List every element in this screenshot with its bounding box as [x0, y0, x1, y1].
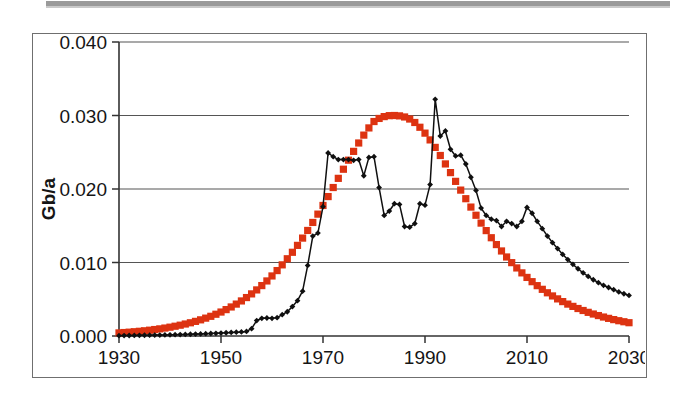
x-tick-label: 1970 [302, 347, 344, 368]
y-tick-group [112, 42, 119, 336]
model-curve-marker [493, 241, 500, 248]
model-curve-marker [335, 175, 342, 182]
model-curve-marker [472, 212, 479, 219]
x-tick-label: 1990 [404, 347, 446, 368]
model-curve-marker [437, 152, 444, 159]
y-tick-label: 0.000 [59, 326, 107, 347]
model-curve-marker [350, 148, 357, 155]
y-axis-title: Gb/a [38, 177, 59, 220]
model-curve-marker [478, 220, 485, 227]
model-curve-marker [421, 130, 428, 137]
model-curve-marker [483, 227, 490, 234]
y-tick-label: 0.010 [59, 253, 107, 274]
model-curve-marker [365, 124, 372, 131]
x-tick-group [119, 336, 629, 343]
x-tick-label: 2010 [506, 347, 548, 368]
model-curve-marker [625, 319, 632, 326]
x-tick-labels: 193019501970199020102030 [98, 347, 645, 368]
model-curve-marker [330, 184, 337, 191]
model-curve-marker [340, 166, 347, 173]
model-curve-marker [488, 234, 495, 241]
model-curve-marker [457, 187, 464, 194]
figure-frame: 0.0000.0100.0200.0300.040 19301950197019… [32, 33, 647, 378]
model-curve-marker [299, 234, 306, 241]
model-curve-marker [442, 160, 449, 167]
model-curve-marker [304, 227, 311, 234]
model-curve-marker [325, 193, 332, 200]
model-curve-marker [360, 132, 367, 139]
y-tick-label: 0.040 [59, 34, 107, 53]
model-curve-marker [284, 255, 291, 262]
model-curve-marker [289, 249, 296, 256]
model-curve-marker [452, 178, 459, 185]
model-curve-marker [467, 203, 474, 210]
model-curve-marker [462, 195, 469, 202]
y-tick-labels: 0.0000.0100.0200.0300.040 [59, 34, 107, 347]
page-canvas: 0.0000.0100.0200.0300.040 19301950197019… [0, 0, 674, 395]
x-tick-label: 1950 [200, 347, 242, 368]
x-tick-label: 1930 [98, 347, 140, 368]
y-tick-label: 0.020 [59, 179, 107, 200]
model-curve-marker [309, 219, 316, 226]
model-curve-marker [355, 139, 362, 146]
y-tick-label: 0.030 [59, 106, 107, 127]
model-curve-marker [294, 242, 301, 249]
chart-plot: 0.0000.0100.0200.0300.040 19301950197019… [33, 34, 645, 376]
model-curve-marker [447, 169, 454, 176]
scan-artifact-strip-shadow [46, 6, 670, 8]
x-tick-label: 2030 [608, 347, 645, 368]
